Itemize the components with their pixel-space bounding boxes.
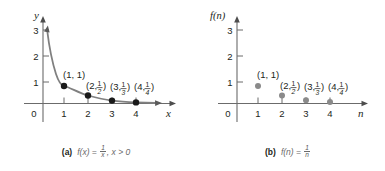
- svg-text:(3,: (3,: [304, 81, 315, 92]
- data-point: [303, 97, 309, 103]
- y-tick-label: 2: [227, 51, 232, 62]
- point-label: (4, 1 4 ): [134, 81, 154, 96]
- caption-fraction-a: 1x: [100, 145, 106, 160]
- panel-b: f(n) n 0 1 2 3 1 2 3 4 (1, 1) (2, 1 2 ): [192, 0, 384, 171]
- origin-label-a: 0: [31, 108, 36, 119]
- point-label: (1, 1): [63, 69, 85, 80]
- y-ticks-b: [237, 30, 243, 82]
- svg-text:2: 2: [97, 88, 102, 95]
- svg-text:1: 1: [316, 81, 320, 88]
- x-tick-label: 2: [85, 108, 90, 119]
- svg-text:(3,: (3,: [110, 81, 121, 92]
- x-ticks-b: [258, 98, 330, 104]
- svg-text:4: 4: [146, 89, 150, 96]
- y-tick-label: 3: [227, 25, 232, 36]
- svg-text:1: 1: [292, 80, 296, 87]
- origin-label-b: 0: [225, 108, 230, 119]
- data-point: [133, 99, 139, 105]
- data-point: [61, 83, 67, 89]
- caption-formula-prefix-a: f(x) =: [77, 147, 99, 157]
- plot-a-svg: y x 0 1 2 3 1 2 3 4 (1, 1) (2, 1 2 ): [0, 0, 192, 145]
- x-tick-label: 2: [279, 108, 284, 119]
- caption-a: (a)f(x) = 1x, x > 0: [0, 145, 192, 160]
- svg-text:4: 4: [340, 89, 344, 96]
- x-tick-label: 1: [255, 108, 260, 119]
- svg-text:(2,: (2,: [86, 80, 97, 91]
- point-label: (3, 1 3 ): [110, 81, 130, 96]
- fraction-denominator: x: [100, 152, 106, 159]
- svg-text:): ): [103, 80, 106, 91]
- caption-formula-suffix-a: , x > 0: [107, 147, 130, 157]
- svg-text:1: 1: [146, 81, 150, 88]
- caption-tag-b: (b): [265, 147, 276, 157]
- svg-text:): ): [297, 80, 300, 91]
- svg-text:3: 3: [122, 89, 126, 96]
- x-tick-label: 1: [61, 108, 66, 119]
- plot-b-svg: f(n) n 0 1 2 3 1 2 3 4 (1, 1) (2, 1 2 ): [192, 0, 384, 145]
- point-label: (3, 1 3 ): [304, 81, 324, 96]
- caption-fraction-b: 1n: [304, 145, 310, 160]
- x-tick-label: 3: [303, 108, 308, 119]
- data-point: [279, 93, 285, 99]
- svg-text:2: 2: [291, 88, 296, 95]
- y-axis-a: [40, 16, 46, 122]
- svg-text:1: 1: [98, 80, 102, 87]
- data-point: [255, 83, 261, 89]
- point-label: (4, 1 4 ): [328, 81, 348, 96]
- data-point: [109, 97, 115, 103]
- x-axis-label-b: n: [358, 107, 364, 119]
- x-tick-label: 3: [109, 108, 114, 119]
- svg-text:(4,: (4,: [328, 81, 339, 92]
- svg-text:(4,: (4,: [134, 81, 145, 92]
- caption-formula-prefix-b: f(n) =: [281, 147, 303, 157]
- svg-text:(2,: (2,: [280, 80, 291, 91]
- y-axis-b: [234, 16, 240, 122]
- svg-text:1: 1: [122, 81, 126, 88]
- fraction-denominator: n: [304, 152, 310, 159]
- svg-text:): ): [151, 81, 154, 92]
- caption-tag-a: (a): [62, 147, 72, 157]
- data-point: [85, 92, 91, 98]
- x-axis-b: [218, 101, 368, 107]
- y-tick-label: 1: [227, 77, 232, 88]
- y-tick-label: 3: [33, 25, 38, 36]
- y-axis-label-b: f(n): [210, 10, 226, 22]
- figure-container: y x 0 1 2 3 1 2 3 4 (1, 1) (2, 1 2 ): [0, 0, 385, 171]
- y-axis-label-a: y: [33, 9, 39, 21]
- svg-text:1: 1: [340, 81, 344, 88]
- curve-one-over-x: [44, 26, 162, 106]
- x-axis-label-a: x: [165, 107, 171, 119]
- panel-a: y x 0 1 2 3 1 2 3 4 (1, 1) (2, 1 2 ): [0, 0, 192, 171]
- x-tick-label: 4: [327, 108, 332, 119]
- y-tick-label: 2: [33, 51, 38, 62]
- point-label: (1, 1): [257, 69, 279, 80]
- svg-text:): ): [127, 81, 130, 92]
- svg-text:): ): [345, 81, 348, 92]
- svg-text:): ): [321, 81, 324, 92]
- x-tick-label: 4: [133, 108, 138, 119]
- svg-text:3: 3: [316, 89, 320, 96]
- data-point: [327, 99, 333, 105]
- caption-b: (b)f(n) = 1n: [192, 145, 384, 160]
- y-tick-label: 1: [33, 77, 38, 88]
